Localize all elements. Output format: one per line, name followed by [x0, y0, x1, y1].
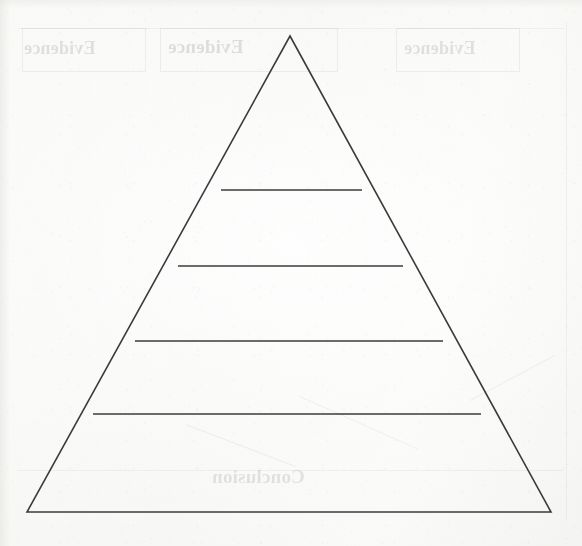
pyramid-diagram	[0, 0, 582, 546]
worksheet-page: EvidenceEvidenceEvidenceConclusion	[0, 0, 582, 546]
pyramid-outline	[27, 36, 551, 512]
pyramid-divider-group	[93, 190, 481, 414]
